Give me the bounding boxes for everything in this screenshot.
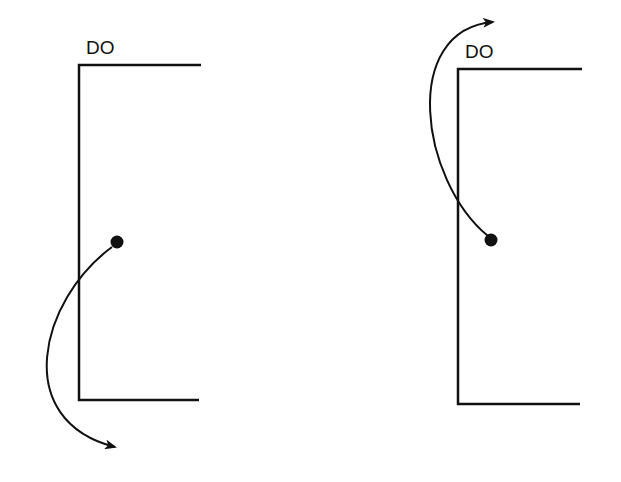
- diagram-canvas: [0, 0, 621, 482]
- panel-right: [430, 22, 582, 404]
- panel-left: [47, 65, 201, 447]
- bracket-right: [458, 69, 582, 404]
- arrow-down: [47, 247, 115, 447]
- arrow-up: [430, 22, 493, 236]
- dot-left: [111, 236, 124, 249]
- bracket-left: [79, 65, 201, 400]
